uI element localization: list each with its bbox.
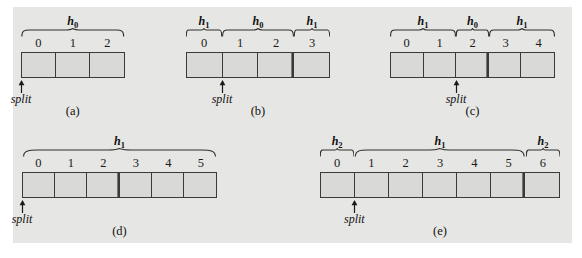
hash-function-label-b-2: h1 <box>294 14 330 30</box>
bucket-index-label: 4 <box>522 36 555 50</box>
panel-part-label-c: (c) <box>390 104 555 119</box>
hash-function-label-c-0: h1 <box>390 14 456 30</box>
bucket-strip-a <box>21 52 125 78</box>
bucket-index-label: 1 <box>354 156 388 170</box>
hash-label-subscript: 2 <box>544 140 548 150</box>
bucket-strip-d <box>22 172 217 198</box>
bucket-index-label: 0 <box>320 156 354 170</box>
bucket-index-label: 5 <box>185 156 218 170</box>
bucket-index-label: 2 <box>90 36 125 50</box>
bucket-cell <box>56 53 90 77</box>
bucket-index-label: 0 <box>186 36 222 50</box>
hash-label-subscript: 1 <box>424 20 428 30</box>
hash-function-label-e-2: h2 <box>526 134 560 150</box>
panel-part-label-a: (a) <box>21 104 125 119</box>
bucket-index-row-c: 01234 <box>390 36 555 50</box>
bucket-index-label: 0 <box>390 36 423 50</box>
hash-label-subscript: 1 <box>523 20 527 30</box>
bucket-index-row-e: 0123456 <box>320 156 560 170</box>
hash-label-subscript: 0 <box>259 20 263 30</box>
bucket-cell <box>423 173 457 197</box>
bucket-index-label: 4 <box>152 156 185 170</box>
bucket-cell <box>55 173 87 197</box>
bucket-index-row-a: 012 <box>21 36 125 50</box>
bucket-cell <box>456 53 489 77</box>
bucket-index-label: 3 <box>489 36 522 50</box>
bucket-cell <box>258 53 294 77</box>
figure-page: h0012split(a)h1h0h10123split(b)h1h0h1012… <box>0 0 582 258</box>
hash-function-label-a-0: h0 <box>21 14 125 30</box>
hash-function-label-d-0: h1 <box>22 134 217 150</box>
hash-label-subscript: 1 <box>121 140 125 150</box>
panel-part-label-b: (b) <box>186 104 330 119</box>
bucket-strip-e <box>320 172 560 198</box>
bucket-index-label: 1 <box>56 36 91 50</box>
hash-label-text: h <box>467 14 474 28</box>
hash-function-label-e-0: h2 <box>320 134 354 150</box>
bucket-index-label: 1 <box>222 36 258 50</box>
bucket-index-label: 3 <box>294 36 330 50</box>
hash-function-label-c-1: h0 <box>456 14 489 30</box>
bucket-index-label: 0 <box>21 36 56 50</box>
bucket-index-label: 3 <box>423 156 457 170</box>
bucket-index-label: 5 <box>491 156 525 170</box>
bucket-index-label: 2 <box>87 156 120 170</box>
bucket-index-label: 2 <box>389 156 423 170</box>
bucket-cell <box>152 173 184 197</box>
bucket-cell <box>120 173 152 197</box>
bucket-cell <box>489 53 522 77</box>
hash-label-text: h <box>114 134 121 148</box>
hash-function-label-b-1: h0 <box>222 14 294 30</box>
hash-label-subscript: 0 <box>74 20 78 30</box>
hash-function-label-b-0: h1 <box>186 14 222 30</box>
hash-label-subscript: 2 <box>338 140 342 150</box>
bucket-cell <box>23 173 55 197</box>
hash-function-label-c-2: h1 <box>489 14 555 30</box>
bucket-index-label: 3 <box>120 156 153 170</box>
bucket-index-label: 0 <box>22 156 55 170</box>
bucket-index-label: 2 <box>456 36 489 50</box>
bucket-cell <box>184 173 216 197</box>
hash-label-text: h <box>67 14 74 28</box>
hash-label-subscript: 1 <box>441 140 445 150</box>
bucket-cell <box>187 53 223 77</box>
hash-label-subscript: 0 <box>474 20 478 30</box>
bucket-cell <box>321 173 355 197</box>
bucket-cell <box>491 173 525 197</box>
bucket-cell <box>389 173 423 197</box>
bucket-strip-b <box>186 52 330 78</box>
bucket-cell <box>22 53 56 77</box>
hash-label-subscript: 1 <box>205 20 209 30</box>
bucket-cell <box>525 173 559 197</box>
bucket-index-row-d: 012345 <box>22 156 217 170</box>
bucket-strip-c <box>390 52 555 78</box>
bucket-cell <box>424 53 457 77</box>
bucket-cell <box>391 53 424 77</box>
bucket-index-label: 1 <box>55 156 88 170</box>
hash-label-subscript: 1 <box>313 20 317 30</box>
bucket-cell <box>223 53 259 77</box>
bucket-cell <box>87 173 119 197</box>
bucket-cell <box>457 173 491 197</box>
bucket-cell <box>294 53 329 77</box>
panel-part-label-d: (d) <box>22 224 217 239</box>
bucket-index-row-b: 0123 <box>186 36 330 50</box>
panel-part-label-e: (e) <box>320 224 560 239</box>
bucket-index-label: 6 <box>526 156 560 170</box>
bucket-index-label: 1 <box>423 36 456 50</box>
bucket-cell <box>90 53 124 77</box>
bucket-cell <box>355 173 389 197</box>
bucket-index-label: 4 <box>457 156 491 170</box>
bucket-cell <box>521 53 554 77</box>
hash-function-label-e-1: h1 <box>354 134 526 150</box>
bucket-index-label: 2 <box>258 36 294 50</box>
